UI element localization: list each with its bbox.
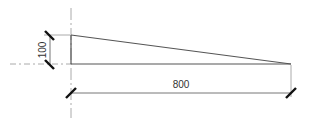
- length-dimension-label: 800: [173, 79, 190, 90]
- taper-top-edge: [71, 35, 291, 64]
- height-dimension-label: 100: [37, 41, 48, 58]
- drawing-canvas: 100 800: [0, 0, 309, 123]
